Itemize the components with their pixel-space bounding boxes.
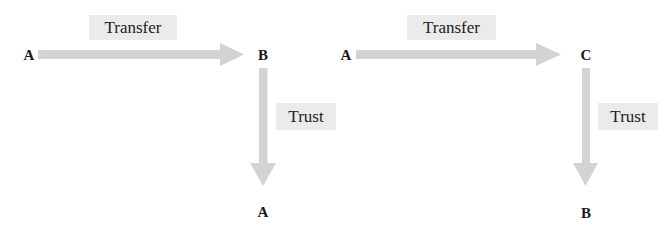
transfer-trust-diagram: A B A Transfer Trust A C B Transfer Trus… xyxy=(0,0,670,229)
right-transfer-label: Transfer xyxy=(407,15,496,40)
left-transfer-arrow xyxy=(38,43,244,66)
left-node-target: A xyxy=(256,205,270,220)
left-trust-label: Trust xyxy=(276,103,336,130)
right-trust-arrow xyxy=(573,68,598,186)
left-node-middle: B xyxy=(256,48,270,63)
left-node-source: A xyxy=(22,48,36,63)
right-node-middle: C xyxy=(579,48,593,63)
right-node-target: B xyxy=(579,206,593,221)
left-trust-arrow xyxy=(250,68,276,186)
right-node-source: A xyxy=(339,48,353,63)
left-transfer-label: Transfer xyxy=(89,15,177,40)
right-trust-label: Trust xyxy=(598,103,658,130)
right-transfer-arrow xyxy=(356,43,561,66)
